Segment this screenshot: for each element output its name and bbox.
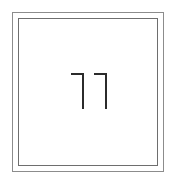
numeral-mark-right-icon — [93, 73, 107, 109]
numeral-mark-right-stem-icon — [105, 73, 107, 109]
numeral-mark-left-icon — [70, 73, 84, 109]
center-figure — [19, 73, 157, 109]
page-canvas — [0, 0, 176, 183]
numeral-mark-left-stem-icon — [82, 73, 84, 109]
frame-content-area — [19, 19, 157, 165]
